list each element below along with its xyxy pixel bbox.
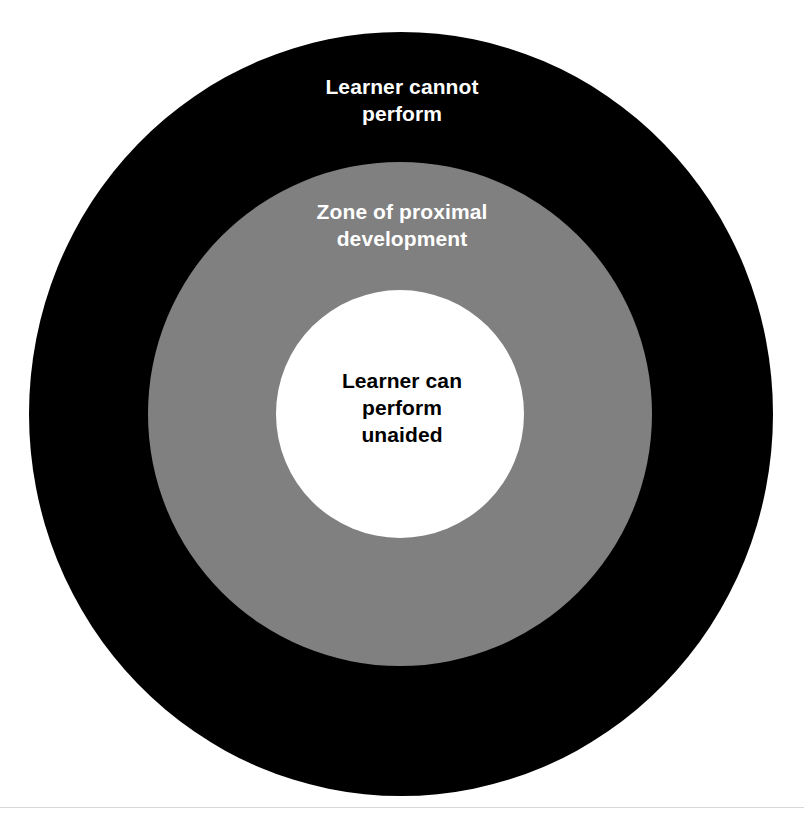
inner-circle-label: Learner can perform unaided — [222, 367, 582, 448]
diagram-canvas: Learner cannot perform Zone of proximal … — [0, 0, 804, 820]
middle-ring-label: Zone of proximal development — [222, 198, 582, 252]
page-bottom-rule — [0, 807, 804, 808]
outer-ring-label: Learner cannot perform — [222, 73, 582, 127]
